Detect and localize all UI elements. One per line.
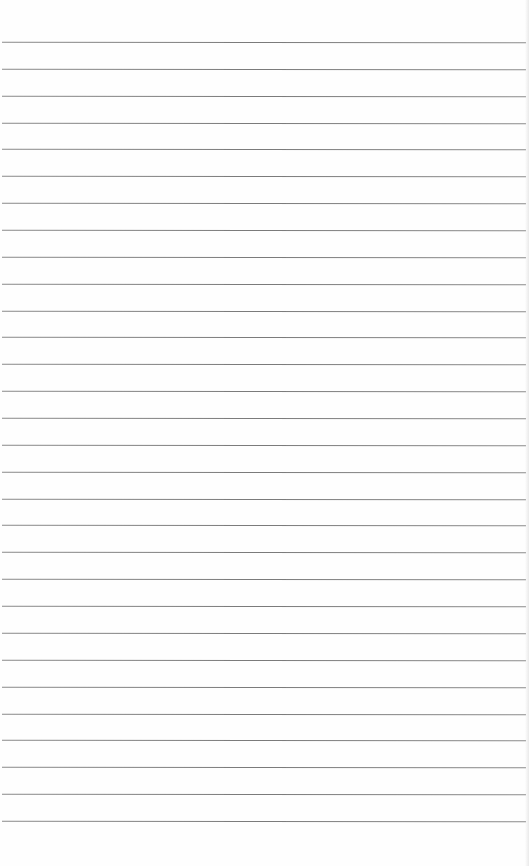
ruled-line [2, 499, 526, 501]
ruled-line [2, 660, 526, 662]
ruled-line [2, 606, 526, 608]
ruled-line [2, 794, 526, 796]
ruled-line [2, 176, 526, 178]
ruled-line [2, 364, 526, 366]
ruled-line [2, 391, 526, 393]
ruled-line [2, 337, 526, 339]
ruled-line [2, 149, 526, 151]
ruled-line [2, 714, 526, 716]
ruled-line [2, 687, 526, 689]
ruled-line [2, 96, 526, 98]
ruled-line [2, 69, 526, 71]
ruled-line [2, 418, 526, 420]
ruled-line [2, 552, 526, 554]
ruled-line [2, 740, 526, 742]
ruled-line [2, 257, 526, 259]
ruled-line [2, 311, 526, 313]
ruled-line [2, 230, 526, 232]
lined-paper-sheet [0, 0, 529, 866]
ruled-line [2, 42, 526, 44]
ruled-line [2, 123, 526, 125]
ruled-line [2, 633, 526, 635]
paper-edge-shadow [525, 0, 529, 866]
ruled-line [2, 203, 526, 205]
ruled-line [2, 284, 526, 286]
ruled-line [2, 821, 526, 823]
ruled-line [2, 445, 526, 447]
ruled-line [2, 472, 526, 474]
ruled-line [2, 525, 526, 527]
ruled-line [2, 767, 526, 769]
ruled-line [2, 579, 526, 581]
